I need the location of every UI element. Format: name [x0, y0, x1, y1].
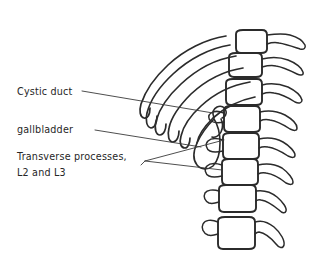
leader-transverse-tick — [141, 161, 145, 165]
transverse-process-3 — [262, 84, 302, 103]
rib-6 — [197, 97, 255, 143]
vertebra-body-6 — [205, 159, 293, 185]
transverse-process-8 — [255, 221, 284, 247]
transverse-process-2 — [262, 58, 303, 75]
leader-transverse-upper — [145, 140, 224, 161]
vertebra-body-7 — [204, 185, 286, 213]
rib-1 — [140, 36, 226, 118]
vertebra-8-left-process — [202, 220, 218, 235]
transverse-process-7 — [256, 191, 286, 213]
transverse-process-6 — [258, 164, 293, 184]
vertebra-body-1 — [236, 30, 305, 53]
rib-2 — [146, 45, 230, 128]
biliary-group — [194, 106, 226, 169]
figure-canvas: Cystic duct gallbladder Transverse proce… — [0, 0, 311, 259]
transverse-process-5 — [259, 138, 295, 157]
label-cystic-duct: Cystic duct — [17, 86, 73, 97]
leader-gallbladder — [95, 130, 201, 147]
vertebra-body-3 — [226, 79, 302, 105]
vertebra-7-left-process — [204, 190, 219, 203]
label-transverse-processes: Transverse processes, — [16, 151, 127, 162]
label-gallbladder: gallbladder — [17, 124, 73, 135]
anatomy-sketch: Cystic duct gallbladder Transverse proce… — [0, 0, 311, 259]
leader-transverse-lower — [145, 161, 222, 170]
vertebra-body-2 — [229, 53, 303, 77]
label-transverse-processes-levels: L2 and L3 — [17, 167, 66, 178]
transverse-process-1 — [267, 34, 305, 49]
vertebral-column-group — [202, 30, 305, 249]
vertebra-body-8 — [202, 217, 284, 249]
transverse-process-4 — [260, 111, 297, 130]
